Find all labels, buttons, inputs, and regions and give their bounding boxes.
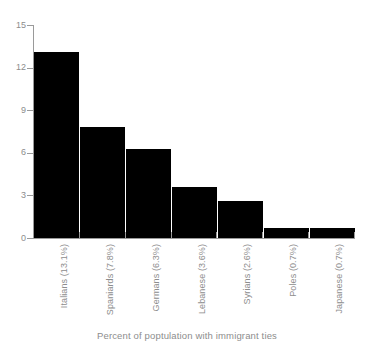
bar <box>172 187 217 238</box>
x-tick-label: Spaniards (7.8%) <box>106 244 115 315</box>
bar <box>126 149 171 238</box>
y-tick-label-9: 9 <box>0 106 26 115</box>
y-tick-label-0: 0 <box>0 234 26 243</box>
y-tick-label-6: 6 <box>0 148 26 157</box>
bar <box>34 52 79 238</box>
x-tick-label: Poles (0.7%) <box>289 244 298 297</box>
y-tick-label-12: 12 <box>0 63 26 72</box>
x-tick <box>354 232 355 239</box>
x-tick-label: Italians (13.1%) <box>60 244 69 308</box>
x-tick-label: Germans (6.3%) <box>152 244 161 311</box>
x-axis-line <box>33 238 354 239</box>
x-tick-label: Japanese (0.7%) <box>335 244 344 314</box>
x-tick <box>216 232 217 239</box>
y-tick-label-3: 3 <box>0 191 26 200</box>
y-tick-label-15: 15 <box>0 21 26 30</box>
bar <box>310 228 355 238</box>
x-tick <box>308 232 309 239</box>
bar <box>218 201 263 238</box>
x-tick-label: Lebanese (3.6%) <box>198 244 207 314</box>
bar-chart: 03691215 Italians (13.1%)Spaniards (7.8%… <box>0 0 374 350</box>
plot-area <box>33 25 354 238</box>
x-tick <box>125 232 126 239</box>
bar <box>80 127 125 238</box>
x-tick <box>262 232 263 239</box>
x-tick <box>33 232 34 239</box>
x-tick <box>171 232 172 239</box>
bar <box>264 228 309 238</box>
x-axis-title: Percent of poptulation with immigrant ti… <box>0 330 374 341</box>
x-tick <box>79 232 80 239</box>
x-tick-label: Syrians (2.6%) <box>243 244 252 304</box>
